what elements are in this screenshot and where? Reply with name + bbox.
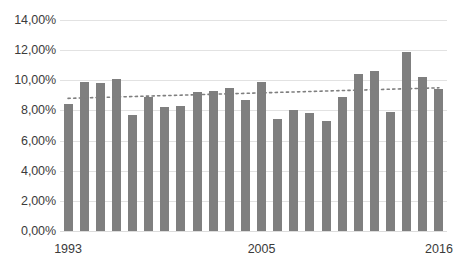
- bar: [273, 119, 282, 231]
- bar-series: [60, 20, 447, 231]
- bar: [225, 88, 234, 231]
- bar: [386, 112, 395, 231]
- bar: [402, 52, 411, 231]
- x-axis-tick-label: 1993: [54, 243, 82, 256]
- bar: [241, 100, 250, 231]
- y-axis-tick-label: 0,00%: [0, 225, 56, 238]
- bar: [257, 82, 266, 231]
- y-axis-tick-label: 2,00%: [0, 195, 56, 208]
- x-axis-tick-label: 2016: [425, 243, 453, 256]
- bar: [338, 97, 347, 231]
- y-axis-tick-label: 10,00%: [0, 74, 56, 87]
- bar: [144, 97, 153, 231]
- y-axis-labels: 0,00%2,00%4,00%6,00%8,00%10,00%12,00%14,…: [0, 0, 56, 279]
- x-axis-tick-label: 2005: [248, 243, 276, 256]
- y-axis-tick-label: 12,00%: [0, 44, 56, 57]
- bar: [128, 115, 137, 231]
- bar: [176, 106, 185, 231]
- bar: [80, 82, 89, 231]
- bar: [64, 104, 73, 231]
- plot-area: [60, 20, 447, 231]
- y-axis-tick-label: 6,00%: [0, 134, 56, 147]
- bar: [418, 77, 427, 231]
- bar: [370, 71, 379, 231]
- bar: [434, 89, 443, 231]
- bar: [354, 74, 363, 231]
- bar: [160, 107, 169, 231]
- bar: [112, 79, 121, 231]
- bar: [96, 83, 105, 231]
- bar: [322, 121, 331, 231]
- y-axis-tick-label: 14,00%: [0, 14, 56, 27]
- gridline: [60, 231, 447, 232]
- bar: [193, 92, 202, 231]
- y-axis-tick-label: 8,00%: [0, 104, 56, 117]
- bar: [209, 91, 218, 231]
- y-axis-tick-label: 4,00%: [0, 164, 56, 177]
- bar: [289, 110, 298, 231]
- x-axis-labels: 199320052016: [0, 243, 451, 273]
- bar: [305, 113, 314, 231]
